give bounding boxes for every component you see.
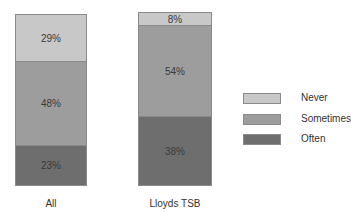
segment-all-often: 23% [15, 145, 87, 186]
bar-lloyds-tsb: 8% 54% 38% [138, 12, 212, 186]
value-label: 38% [165, 146, 185, 157]
legend-swatch [243, 114, 281, 125]
legend-label: Never [301, 92, 328, 103]
segment-lloyds-never: 8% [138, 12, 212, 26]
bar-all: 29% 48% 23% [15, 14, 87, 186]
segment-all-sometimes: 48% [15, 61, 87, 146]
value-label: 23% [41, 160, 61, 171]
x-tick-label: All [15, 198, 87, 209]
x-tick-label: Lloyds TSB [128, 198, 222, 209]
segment-lloyds-often: 38% [138, 116, 212, 186]
legend-swatch [243, 134, 281, 145]
legend-label: Often [301, 133, 325, 144]
segment-all-never: 29% [15, 14, 87, 62]
segment-lloyds-sometimes: 54% [138, 25, 212, 117]
value-label: 8% [168, 14, 182, 25]
legend-label: Sometimes [301, 113, 351, 124]
legend-swatch [243, 93, 281, 104]
value-label: 54% [165, 66, 185, 77]
value-label: 48% [41, 98, 61, 109]
value-label: 29% [41, 33, 61, 44]
